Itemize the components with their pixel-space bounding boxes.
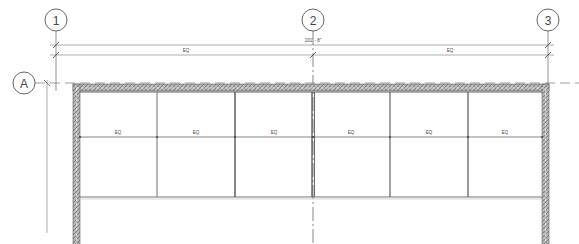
segment-dimension-label-2: EQ bbox=[447, 48, 454, 53]
panel-label-2: EQ bbox=[193, 130, 200, 135]
panel-label-3: EQ bbox=[271, 130, 278, 135]
exterior-wall[interactable] bbox=[73, 84, 549, 244]
grid-label-1: 1 bbox=[53, 14, 60, 28]
panel-grid bbox=[79, 92, 543, 199]
grid-line-1[interactable]: 1 bbox=[45, 9, 67, 91]
wall-top[interactable] bbox=[73, 84, 549, 91]
panel-label-4: EQ bbox=[348, 130, 355, 135]
overall-dimension-label: 101' - 8" bbox=[305, 38, 322, 43]
grid-label-2: 2 bbox=[310, 14, 317, 28]
grid-label-3: 3 bbox=[545, 14, 552, 28]
segment-dimension-label-1: EQ bbox=[183, 48, 190, 53]
panel-label-1: EQ bbox=[115, 130, 122, 135]
panel-label-5: EQ bbox=[426, 130, 433, 135]
panel-label-6: EQ bbox=[502, 130, 509, 135]
segment-dimension[interactable]: EQ EQ bbox=[50, 48, 554, 58]
grid-line-3[interactable]: 3 bbox=[537, 9, 559, 91]
grid-line-2[interactable]: 2 bbox=[302, 9, 324, 244]
vertical-dimension-line bbox=[44, 80, 50, 233]
grid-label-a: A bbox=[20, 77, 28, 91]
floor-plan-drawing: 1 2 3 A 101' - 8" EQ EQ bbox=[0, 0, 579, 244]
overall-dimension[interactable]: 101' - 8" bbox=[50, 38, 554, 48]
